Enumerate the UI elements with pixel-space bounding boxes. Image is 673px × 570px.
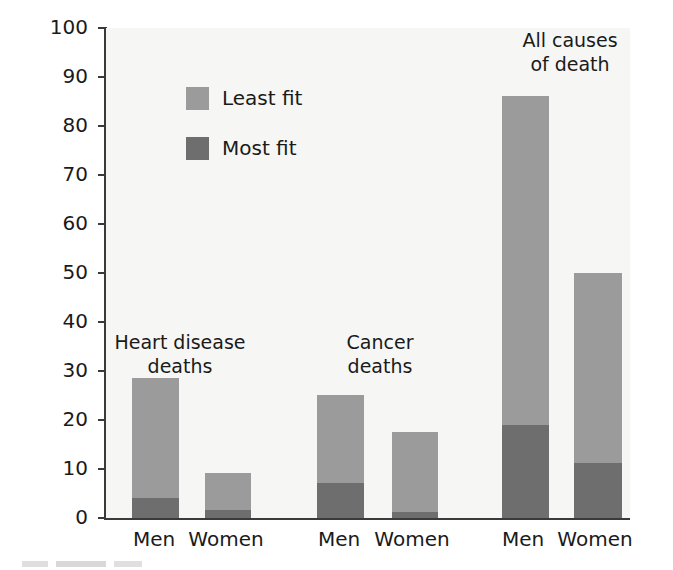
y-tick-label: 80 (0, 113, 88, 137)
bar-cancer-men[interactable] (317, 395, 364, 518)
x-label-heart-women: Women (176, 527, 276, 551)
bar-segment-most-fit (132, 498, 179, 518)
legend-item-least-fit[interactable]: Least fit (186, 84, 302, 112)
group-annotation-line1: All causes (495, 28, 645, 52)
y-tick-label: 100 (0, 15, 88, 39)
y-tick-label: 60 (0, 211, 88, 235)
y-tick-label: 50 (0, 260, 88, 284)
bar-heart-women[interactable] (205, 473, 251, 518)
bar-segment-least-fit (132, 378, 179, 518)
bar-allcauses-women[interactable] (574, 273, 622, 518)
bar-segment-most-fit (205, 510, 251, 518)
y-tick-label: 70 (0, 162, 88, 186)
y-tick-label: 10 (0, 456, 88, 480)
group-annotation-heart-disease: Heart disease deaths (105, 330, 255, 378)
y-tick-label: 0 (0, 505, 88, 529)
bar-segment-most-fit (574, 463, 622, 518)
bar-allcauses-men[interactable] (502, 96, 549, 518)
legend-label-most-fit: Most fit (222, 136, 297, 160)
y-tick-label: 30 (0, 358, 88, 382)
legend-label-least-fit: Least fit (222, 86, 302, 110)
group-annotation-all-causes: All causes of death (495, 28, 645, 76)
bar-segment-least-fit (392, 432, 438, 518)
plot-area (104, 28, 630, 520)
legend-swatch-most-fit (186, 137, 209, 160)
group-annotation-line2: deaths (105, 354, 255, 378)
bar-heart-men[interactable] (132, 378, 179, 518)
legend-item-most-fit[interactable]: Most fit (186, 134, 302, 162)
y-tick-label: 90 (0, 64, 88, 88)
group-annotation-line2: deaths (305, 354, 455, 378)
scan-artifact (22, 561, 142, 567)
group-annotation-line2: of death (495, 52, 645, 76)
chart-legend: Least fit Most fit (186, 84, 302, 184)
chart-figure: Death rates 100 90 80 70 60 50 40 (0, 0, 673, 570)
y-tick-label: 20 (0, 407, 88, 431)
x-label-allcauses-women: Women (545, 527, 645, 551)
x-label-cancer-women: Women (362, 527, 462, 551)
bar-segment-most-fit (317, 483, 364, 518)
bar-cancer-women[interactable] (392, 432, 438, 518)
group-annotation-line1: Heart disease (105, 330, 255, 354)
bar-segment-most-fit (392, 512, 438, 518)
y-tick-label: 40 (0, 309, 88, 333)
group-annotation-cancer: Cancer deaths (305, 330, 455, 378)
legend-swatch-least-fit (186, 87, 209, 110)
group-annotation-line1: Cancer (305, 330, 455, 354)
bar-segment-most-fit (502, 425, 549, 518)
